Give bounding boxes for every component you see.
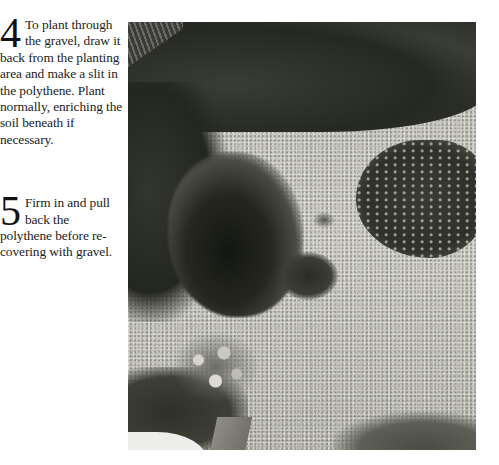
wooden-tub-edge bbox=[209, 417, 253, 450]
step-number: 4 bbox=[0, 17, 21, 50]
step-5: 5Firm in and pull back the polythene bef… bbox=[0, 195, 124, 261]
instructions-column: 4To plant through the gravel, draw it ba… bbox=[0, 17, 124, 261]
step-number: 5 bbox=[0, 195, 21, 228]
tub-flowers bbox=[173, 332, 258, 402]
foreground-plants bbox=[333, 412, 476, 450]
small-plant bbox=[313, 212, 335, 228]
step-4: 4To plant through the gravel, draw it ba… bbox=[0, 17, 124, 148]
feathery-shrub bbox=[168, 152, 303, 317]
garden-photo bbox=[128, 22, 476, 450]
low-plant-clump bbox=[278, 252, 338, 300]
